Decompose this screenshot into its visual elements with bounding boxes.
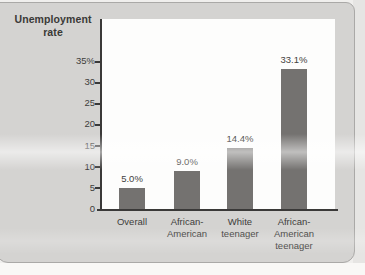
y-tick-label: 35% <box>61 55 95 67</box>
bar-value-label: 33.1% <box>267 54 321 66</box>
page-bottom-margin <box>0 263 365 275</box>
y-tick-label: 15 <box>61 140 95 152</box>
y-tick-label: 25 <box>61 97 95 109</box>
y-tick-label: 0 <box>61 203 95 215</box>
bar <box>227 148 253 209</box>
bar-value-label: 5.0% <box>105 173 159 185</box>
bar <box>281 69 307 209</box>
bar-value-label: 9.0% <box>160 156 214 168</box>
y-tick <box>95 124 100 126</box>
y-tick-label: 10 <box>61 161 95 173</box>
y-tick <box>95 145 100 147</box>
bar <box>119 188 145 209</box>
y-axis-title-line1: Unemployment <box>12 13 94 26</box>
y-tick-label: 30 <box>61 76 95 88</box>
category-label-line: teenager <box>257 240 331 252</box>
y-tick <box>95 166 100 168</box>
x-axis-line <box>97 209 338 211</box>
y-tick-label: 5 <box>61 182 95 194</box>
y-tick <box>95 187 100 189</box>
category-label-line: American <box>257 228 331 240</box>
y-axis-title-line2: rate <box>12 26 94 39</box>
y-axis-line <box>100 19 102 211</box>
bar-value-label: 14.4% <box>213 133 267 145</box>
bar <box>174 171 200 209</box>
page-background: Unemployment rate 35%3025201510505.0%Ove… <box>0 0 365 275</box>
category-label-line: African- <box>257 216 331 228</box>
y-tick <box>95 61 100 63</box>
category-label: African-Americanteenager <box>257 216 331 251</box>
y-tick <box>95 82 100 84</box>
y-axis-title: Unemployment rate <box>12 13 94 38</box>
y-tick-label: 20 <box>61 118 95 130</box>
y-tick <box>95 103 100 105</box>
